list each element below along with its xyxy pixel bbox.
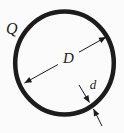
diameter-arrow-upper-segment [79, 37, 106, 52]
diagram-canvas: Q D d [0, 0, 124, 133]
thickness-arrow-inner [79, 85, 90, 103]
ring-diagram: Q D d [0, 0, 124, 133]
diameter-arrow-lower-segment [25, 65, 59, 84]
charge-label: Q [6, 20, 18, 37]
thickness-label: d [90, 77, 97, 92]
diameter-label: D [62, 50, 74, 66]
thickness-arrow-outer [94, 109, 103, 126]
